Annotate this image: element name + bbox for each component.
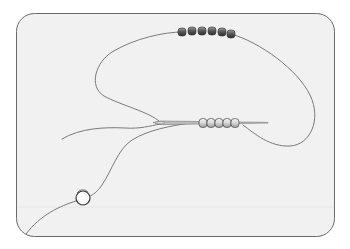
bead <box>215 119 223 128</box>
bead <box>231 119 239 128</box>
bead <box>188 27 196 35</box>
bead <box>207 119 215 128</box>
bead <box>227 30 235 38</box>
bead <box>178 28 186 36</box>
beading-diagram <box>0 0 350 249</box>
needle-bead-row <box>199 119 239 128</box>
bead <box>198 27 206 35</box>
bead <box>223 119 231 128</box>
needle-eye <box>155 122 165 124</box>
stop-bead <box>76 191 90 205</box>
bead <box>199 119 207 128</box>
bead <box>218 28 226 36</box>
bead <box>208 27 216 35</box>
